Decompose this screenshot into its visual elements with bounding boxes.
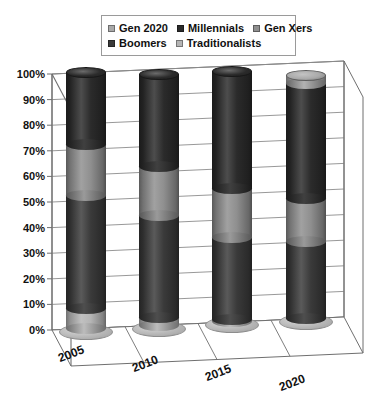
legend-item-traditionalists[interactable]: Traditionalists [176, 36, 262, 50]
segment-body [212, 319, 252, 322]
x-tick-label-2015: 2015 [203, 361, 233, 384]
right-top-edge [344, 61, 363, 97]
gridlines [52, 61, 344, 330]
column-bottom-ellipse [66, 323, 106, 334]
segment-gen-xers-2020 [286, 198, 326, 242]
segment-gen-xers-2010 [139, 167, 179, 216]
column-2010 [0, 0, 373, 406]
segment-millennials-2020 [286, 83, 326, 198]
segment-boundary-ellipse [212, 314, 252, 325]
segment-gen-xers-2015 [212, 189, 252, 238]
segment-boundary-ellipse [139, 312, 179, 323]
chart-plot-area [0, 0, 373, 406]
segment-traditionalists-2005 [66, 308, 106, 328]
segment-body [66, 72, 106, 144]
segment-boomers-2020 [286, 242, 326, 319]
legend-swatch-gen-xers [253, 25, 260, 32]
segment-body [212, 238, 252, 320]
segment-body [212, 71, 252, 189]
y-tick-label: 90% [23, 94, 45, 106]
segment-millennials-2015 [212, 71, 252, 189]
floor-plane [52, 317, 363, 366]
legend-swatch-boomers [108, 40, 115, 47]
segment-boundary-ellipse [66, 190, 106, 201]
y-tick-label: 0% [29, 324, 45, 336]
chart-legend: Gen 2020 Millennials Gen Xers Boomers Tr… [101, 15, 296, 56]
legend-swatch-traditionalists [176, 40, 183, 47]
segment-boundary-ellipse [212, 183, 252, 194]
segment-boundary-ellipse [66, 303, 106, 314]
segment-body [139, 318, 179, 326]
column-bottom-ellipse [212, 316, 252, 327]
y-tick-label: 40% [23, 222, 45, 234]
legend-label-boomers: Boomers [119, 36, 167, 50]
segment-traditionalists-2010 [139, 318, 179, 326]
segment-boundary-ellipse [212, 232, 252, 243]
segment-millennials-2005 [66, 72, 106, 144]
legend-label-gen-xers: Gen Xers [264, 21, 312, 35]
y-axis-labels: 100% 90% 80% 70% 60% 50% 40% 30% 20% 10%… [0, 0, 48, 406]
legend-item-boomers[interactable]: Boomers [108, 36, 167, 50]
y-tick-label: 100% [17, 68, 45, 80]
x-tick-label-2010: 2010 [130, 352, 160, 375]
segment-boomers-2005 [66, 195, 106, 308]
segment-body [66, 195, 106, 308]
segment-boundary-ellipse [286, 193, 326, 204]
column-2015 [0, 0, 373, 406]
x-tick-label-2005: 2005 [56, 342, 86, 365]
segment-body [139, 215, 179, 317]
y-tick-label: 80% [23, 119, 45, 131]
y-tick-label: 20% [23, 273, 45, 285]
y-tick-label: 70% [23, 145, 45, 157]
legend-label-millennials: Millennials [188, 21, 244, 35]
column-top-cap [66, 67, 106, 78]
segment-boundary-ellipse [286, 236, 326, 247]
legend-row-2: Boomers Traditionalists [108, 36, 289, 50]
legend-item-gen-2020[interactable]: Gen 2020 [108, 21, 168, 35]
column-bottom-ellipse [139, 320, 179, 331]
column-top-cap [139, 69, 179, 80]
segment-gen-xers-2005 [66, 144, 106, 195]
column-bottom-ellipse [286, 313, 326, 324]
y-tick-label: 50% [23, 196, 45, 208]
chart-root: 100% 90% 80% 70% 60% 50% 40% 30% 20% 10%… [0, 0, 373, 406]
segment-boomers-2015 [212, 238, 252, 320]
legend-label-traditionalists: Traditionalists [187, 36, 262, 50]
y-tick-label: 30% [23, 247, 45, 259]
segment-millennials-2010 [139, 74, 179, 166]
column-pedestal [205, 317, 259, 333]
legend-row-1: Gen 2020 Millennials Gen Xers [108, 21, 289, 35]
segment-body [286, 198, 326, 242]
segment-boundary-ellipse [286, 78, 326, 89]
y-axis-line [52, 74, 71, 366]
legend-item-millennials[interactable]: Millennials [177, 21, 244, 35]
column-2005 [0, 0, 373, 406]
column-pedestal [59, 324, 113, 340]
legend-label-gen-2020: Gen 2020 [119, 21, 168, 35]
column-2020 [0, 0, 373, 406]
segment-body [139, 74, 179, 166]
segment-boundary-ellipse [66, 139, 106, 150]
segment-body [66, 308, 106, 328]
x-tick-label-2020: 2020 [277, 371, 307, 394]
column-top-cap [212, 66, 252, 77]
legend-swatch-gen-2020 [108, 25, 115, 32]
column-pedestal [279, 314, 333, 330]
back-wall [52, 61, 344, 330]
segment-body [212, 189, 252, 238]
segment-boundary-ellipse [139, 210, 179, 221]
segment-boundary-ellipse [139, 161, 179, 172]
segment-body [66, 144, 106, 195]
segment-body [286, 83, 326, 198]
column-top-cap [286, 70, 326, 81]
legend-swatch-millennials [177, 25, 184, 32]
y-tick-label: 60% [23, 170, 45, 182]
segment-body [286, 75, 326, 83]
segment-traditionalists-2015 [212, 319, 252, 322]
legend-item-gen-xers[interactable]: Gen Xers [253, 21, 312, 35]
segment-boomers-2010 [139, 215, 179, 317]
segment-body [286, 242, 326, 319]
column-pedestal [132, 321, 186, 337]
segment-gen-2020-2020 [286, 75, 326, 83]
segment-body [139, 167, 179, 216]
